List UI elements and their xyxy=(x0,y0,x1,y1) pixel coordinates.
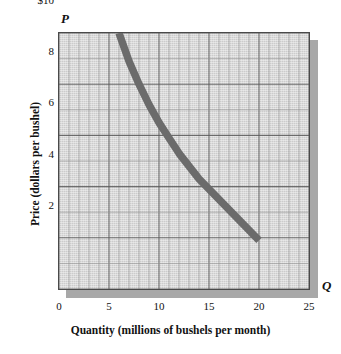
x-axis-ticks: 0510152025 xyxy=(0,300,341,316)
quantity-axis-symbol: Q xyxy=(322,278,331,294)
demand-curve xyxy=(59,33,309,289)
x-tick-label: 5 xyxy=(94,300,124,312)
plot-area xyxy=(58,32,310,290)
y-axis-title: Price (dollars per bushel) xyxy=(29,49,41,279)
y-tick-label: $10 xyxy=(38,0,55,6)
y-tick-label: 8 xyxy=(49,45,55,57)
y-tick-label: 2 xyxy=(49,199,55,211)
x-tick-label: 0 xyxy=(44,300,74,312)
demand-curve-figure: 2468$10 0510152025 P Q Price (dollars pe… xyxy=(0,0,341,354)
price-axis-symbol: P xyxy=(61,11,69,27)
y-tick-label: 6 xyxy=(49,96,55,108)
x-tick-label: 10 xyxy=(144,300,174,312)
x-tick-label: 20 xyxy=(244,300,274,312)
x-tick-label: 15 xyxy=(194,300,224,312)
y-tick-label: 4 xyxy=(49,148,55,160)
x-axis-title: Quantity (millions of bushels per month) xyxy=(0,324,341,336)
x-tick-label: 25 xyxy=(294,300,324,312)
